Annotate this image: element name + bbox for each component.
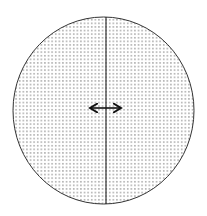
diagram-canvas: [0, 0, 207, 216]
disc: [13, 17, 194, 204]
dot-pattern-fill: [13, 17, 194, 204]
dotted-circle-diagram: [0, 0, 207, 216]
